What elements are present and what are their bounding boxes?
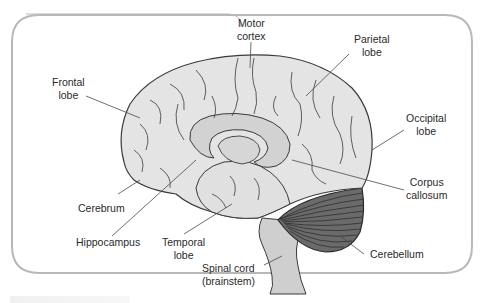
label-spinal-cord: Spinal cord (brainstem) bbox=[202, 262, 255, 287]
brain-illustration bbox=[0, 0, 503, 303]
label-frontal-lobe: Frontal lobe bbox=[52, 76, 85, 101]
label-cerebellum: Cerebellum bbox=[370, 248, 424, 261]
label-hippocampus: Hippocampus bbox=[76, 236, 140, 249]
label-motor-cortex: Motor cortex bbox=[237, 17, 266, 42]
label-parietal-lobe: Parietal lobe bbox=[354, 33, 390, 58]
label-temporal-lobe: Temporal lobe bbox=[162, 236, 205, 261]
label-corpus-callosum: Corpus callosum bbox=[406, 176, 447, 201]
label-cerebrum: Cerebrum bbox=[78, 202, 125, 215]
label-occipital-lobe: Occipital lobe bbox=[406, 112, 446, 137]
caption-cropped bbox=[10, 296, 130, 303]
